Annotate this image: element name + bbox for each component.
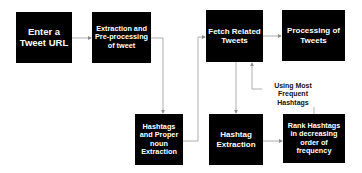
node-rank-hashtags: Rank Hashtags in decreasing order of fre… xyxy=(283,114,345,163)
node-hashtag-extraction: Hashtag Extraction xyxy=(209,114,263,165)
edge-label-using-most-frequent-hashtags: Using Most Frequent Hashtags xyxy=(262,82,324,107)
node-fetch-related-tweets: Fetch Related Tweets xyxy=(206,10,263,62)
node-hashtags-proper-noun-extraction: Hashtags and Proper noun Extraction xyxy=(135,114,183,165)
node-enter-tweet-url: Enter a Tweet URL xyxy=(16,12,72,63)
node-processing-of-tweets: Processing of Tweets xyxy=(282,10,345,61)
node-extraction-preprocessing: Extraction and Pre-processing of tweet xyxy=(92,12,151,63)
